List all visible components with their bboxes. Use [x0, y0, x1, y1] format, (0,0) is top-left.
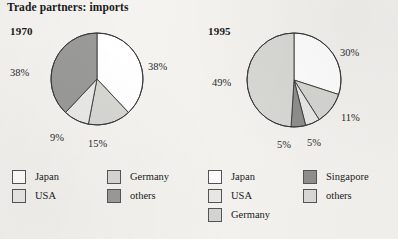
legend-label: Germany — [231, 209, 293, 220]
legend-swatch-icon — [208, 189, 222, 203]
legend-label: USA — [35, 190, 97, 201]
pie-percent-label: 5% — [307, 137, 321, 148]
pie-percent-label: 9% — [50, 132, 64, 143]
legend-swatch-icon — [208, 170, 222, 184]
legend-item-japan: Japan — [208, 168, 293, 185]
legend-label: Japan — [35, 171, 97, 182]
legend-label: USA — [231, 190, 293, 201]
figure-trade-partners-imports: Trade partners: imports 1970 1995 38%15%… — [0, 0, 398, 239]
chart-year-label-1970: 1970 — [10, 25, 33, 37]
pie-percent-label: 30% — [340, 47, 359, 58]
pie-chart-1970 — [37, 19, 157, 139]
pie-percent-label: 38% — [148, 61, 167, 72]
pie-percent-label: 49% — [212, 77, 231, 88]
legend-swatch-icon — [107, 189, 121, 203]
legend-item-others: others — [107, 187, 192, 204]
legend-item-japan: Japan — [12, 168, 97, 185]
legend-item-germany: Germany — [208, 206, 293, 223]
legend-label: others — [326, 190, 388, 201]
legend-item-singapore: Singapore — [303, 168, 388, 185]
legend-swatch-icon — [107, 170, 121, 184]
pie-chart-1995 — [233, 19, 355, 141]
legend-label: others — [130, 190, 192, 201]
legend-swatch-icon — [303, 189, 317, 203]
figure-title: Trade partners: imports — [7, 1, 129, 13]
legend-swatch-icon — [12, 170, 26, 184]
legend-item-others: others — [303, 187, 388, 204]
pie-percent-label: 38% — [10, 67, 29, 78]
legend-1970: JapanGermanyUSAothers — [12, 168, 192, 204]
pie-percent-label: 11% — [341, 112, 360, 123]
pie-slice-others — [247, 33, 294, 127]
chart-year-label-1995: 1995 — [208, 25, 231, 37]
legend-swatch-icon — [303, 170, 317, 184]
legend-item-usa: USA — [12, 187, 97, 204]
legend-label: Singapore — [326, 171, 388, 182]
legend-label: Japan — [231, 171, 293, 182]
legend-label: Germany — [130, 171, 192, 182]
legend-swatch-icon — [12, 189, 26, 203]
pie-percent-label: 15% — [88, 138, 107, 149]
legend-item-germany: Germany — [107, 168, 192, 185]
legend-1995: JapanUSAGermanySingaporeothers — [208, 168, 388, 223]
pie-percent-label: 5% — [277, 139, 291, 150]
legend-swatch-icon — [208, 208, 222, 222]
legend-item-usa: USA — [208, 187, 293, 204]
